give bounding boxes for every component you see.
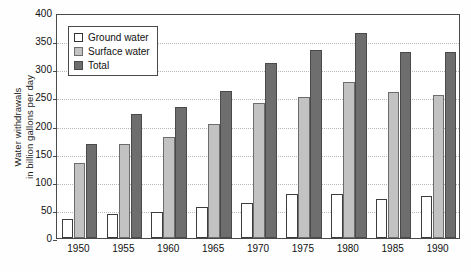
bar-group [331,15,367,238]
y-axis-tick-label: 300 [18,65,52,75]
bar [421,196,433,238]
legend-item: Total [74,59,150,71]
legend-label: Total [88,60,109,71]
bar-group [196,15,232,238]
x-axis-tick-label: 1985 [382,243,404,254]
bar [119,144,131,239]
y-axis-tick-label: 200 [18,122,52,132]
legend-label: Surface water [88,46,150,57]
bar [331,194,343,238]
x-axis-tick-labels: 195019551960196519701975198019851990 [56,241,460,263]
x-axis-tick-label: 1965 [202,243,224,254]
bar [208,124,220,238]
bar-group [286,15,322,238]
x-axis-tick-label: 1970 [247,243,269,254]
bar [163,137,175,238]
bar-group [421,15,457,238]
legend: Ground waterSurface waterTotal [68,26,158,76]
bar [253,103,265,238]
bar [86,144,98,239]
legend-swatch-icon [74,47,83,56]
bar [265,63,277,238]
legend-item: Surface water [74,45,150,57]
bar [62,219,74,238]
bar [74,163,86,238]
bar [298,97,310,238]
x-axis-tick-label: 1975 [292,243,314,254]
y-axis-tick-label: 150 [18,150,52,160]
x-axis-tick-label: 1960 [157,243,179,254]
legend-swatch-icon [74,61,83,70]
x-axis-tick-label: 1950 [67,243,89,254]
bar-group [241,15,277,238]
bar [343,82,355,238]
y-axis-tick-label: 350 [18,37,52,47]
bar [286,194,298,238]
legend-item: Ground water [74,31,150,43]
y-axis-tick-label: 250 [18,93,52,103]
y-axis-tick-label: 100 [18,178,52,188]
bar [433,95,445,238]
x-axis-tick-label: 1990 [426,243,448,254]
bar [196,207,208,238]
legend-swatch-icon [74,33,83,42]
x-axis-tick-label: 1955 [112,243,134,254]
x-axis-tick-label: 1980 [337,243,359,254]
y-axis-tick-labels: 050100150200250300350400 [0,0,52,272]
water-withdrawals-bar-chart: Water withdrawals in billion gallons per… [0,0,471,272]
bar [310,50,322,238]
bar [445,52,457,238]
bar [400,52,412,238]
y-axis-tick-label: 0 [18,234,52,244]
y-axis-tick-label: 50 [18,206,52,216]
bar [376,199,388,238]
bar [220,91,232,238]
bar [107,214,119,238]
bar [355,33,367,238]
bar-group [376,15,412,238]
bar [175,107,187,238]
y-axis-tick-label: 400 [18,9,52,19]
bar [131,114,143,238]
bar [151,212,163,238]
bar [388,92,400,238]
legend-label: Ground water [88,32,149,43]
bar [241,203,253,238]
